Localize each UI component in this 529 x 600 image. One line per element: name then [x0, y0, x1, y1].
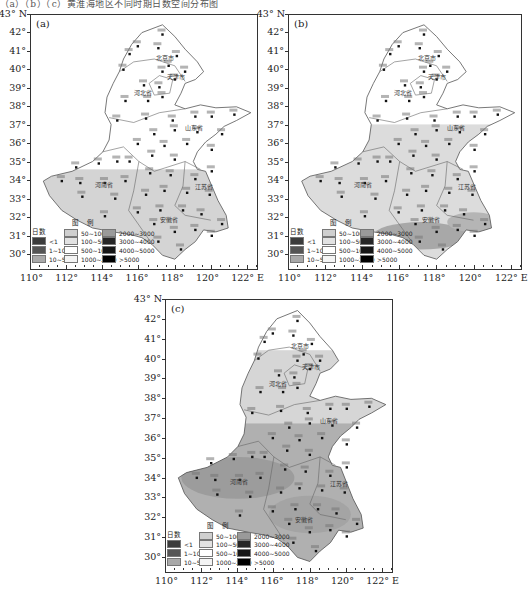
latitude-label: 34° [258, 175, 284, 185]
station-marker [346, 443, 348, 445]
station-marker [186, 143, 188, 145]
legend-swatch [322, 246, 336, 254]
station-marker [75, 166, 77, 168]
station-marker [484, 133, 486, 135]
station-marker [463, 213, 465, 215]
latitude-label: 36° [0, 138, 26, 148]
station-marker [81, 196, 83, 198]
station-marker [143, 84, 145, 86]
station-marker [145, 117, 147, 119]
latitude-label: 38° [0, 101, 26, 111]
station-marker [346, 535, 348, 537]
station-marker [272, 332, 274, 334]
station-marker [344, 491, 346, 493]
legend-swatch [290, 237, 304, 245]
station-marker [425, 145, 427, 147]
lon-tick [446, 265, 447, 267]
station-marker [329, 529, 331, 531]
station-marker [211, 115, 213, 117]
station-marker [210, 462, 212, 464]
station-marker [158, 86, 160, 88]
legend-item: <1 [290, 237, 316, 245]
station-marker [209, 194, 211, 196]
lon-tick [193, 265, 194, 267]
station-marker [457, 115, 459, 117]
latitude-label: 35° [0, 157, 26, 167]
map-panel-a: 43° N42°41°40°39°38°37°36°35°34°33°32°31… [0, 12, 265, 297]
station-marker [408, 100, 410, 102]
lon-tick [427, 265, 428, 267]
legend-header: 日数 [32, 229, 46, 236]
station-marker [259, 477, 261, 479]
station-marker [385, 180, 387, 182]
station-marker [446, 70, 448, 72]
legend-item: 3000~4000 [360, 237, 413, 245]
station-marker [414, 133, 416, 135]
legend-title: 图 例 [207, 523, 232, 530]
station-marker [196, 477, 198, 479]
station-marker [423, 96, 425, 98]
latitude-label: 33° [0, 194, 26, 204]
longitude-label: 114° [350, 273, 373, 283]
station-marker [383, 69, 385, 71]
legend-header: 日数 [290, 229, 304, 236]
lon-tick [355, 568, 356, 570]
station-marker [346, 408, 348, 410]
legend-label: >5000 [119, 256, 139, 263]
station-marker [376, 160, 378, 162]
latitude-label: 36° [258, 138, 284, 148]
latitude-label: 32° [258, 212, 284, 222]
station-marker [167, 65, 169, 67]
station-marker [435, 231, 437, 233]
legend-item: 4000~5000 [237, 549, 290, 557]
latitude-label: 40° [0, 64, 26, 74]
latitude-label: 37° [0, 120, 26, 130]
legend-swatch [237, 549, 251, 557]
station-marker [385, 100, 387, 102]
legend-swatch [360, 237, 374, 245]
map-panel-b: 43° N42°41°40°39°38°37°36°35°34°33°32°31… [268, 12, 529, 297]
legend-swatch [199, 532, 213, 540]
station-marker [128, 53, 130, 55]
province-label: 北京市 [291, 342, 309, 350]
latitude-label: 30° [258, 249, 284, 259]
station-marker [321, 437, 323, 439]
legend-item: <1 [167, 540, 193, 548]
lon-tick [391, 568, 392, 570]
province-label: 北京市 [156, 54, 174, 62]
legend-swatch [360, 246, 374, 254]
province-label: 河北省 [269, 380, 287, 388]
station-marker [433, 119, 435, 121]
station-marker [473, 149, 475, 151]
legend-swatch [102, 229, 116, 237]
latitude-label: 43° N [0, 9, 27, 19]
station-marker [147, 100, 149, 102]
panel-tag: (c) [171, 303, 184, 314]
legend-title: 图 例 [330, 220, 355, 227]
lon-tick [373, 568, 374, 570]
station-marker [149, 172, 151, 174]
latitude-label: 41° [258, 46, 284, 56]
station-marker [438, 55, 440, 57]
longitude-label: 118° [423, 273, 446, 283]
station-marker [161, 96, 163, 98]
lon-tick [30, 265, 31, 269]
legend-swatch [237, 558, 251, 566]
latitude-label: 30° [0, 249, 26, 259]
legend-label: 4000~5000 [377, 247, 413, 254]
station-marker [104, 215, 106, 217]
longitude-label: 120° [331, 576, 354, 586]
station-marker [296, 359, 298, 361]
legend-item: 3000~4000 [237, 540, 290, 548]
legend-swatch [237, 532, 251, 540]
station-marker [153, 133, 155, 135]
legend-swatch [64, 246, 78, 254]
lon-tick [148, 265, 149, 267]
province-label: 江苏省 [330, 480, 348, 488]
legend-item: 2000~3000 [237, 532, 290, 540]
province-label: 河北省 [394, 89, 412, 97]
lon-tick [346, 568, 347, 572]
legend-swatch [199, 549, 213, 557]
province-label: 天津市 [167, 73, 185, 81]
legend-label: 2000~3000 [254, 533, 290, 540]
